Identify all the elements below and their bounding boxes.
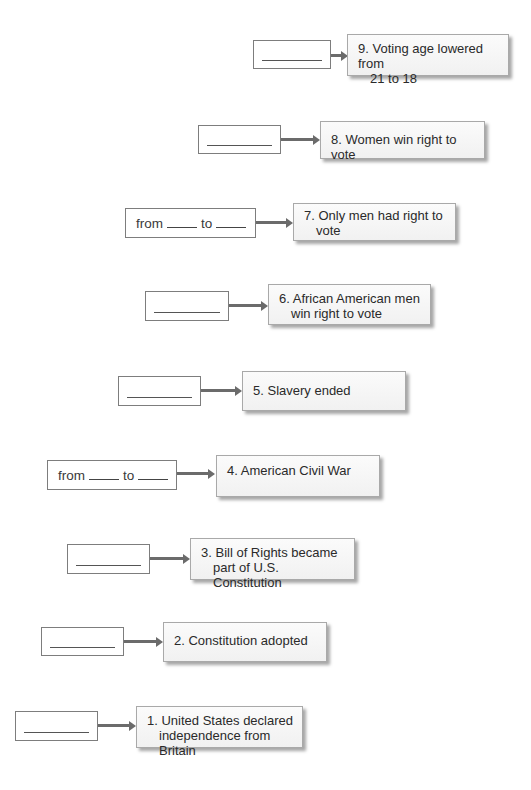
arrow-icon — [229, 304, 262, 307]
answer-box-8[interactable] — [198, 125, 281, 154]
arrow-icon — [150, 557, 184, 560]
event-text: United States declared — [161, 713, 293, 728]
event-text-line2: independence from Britain — [147, 728, 294, 758]
event-box-4: 4. American Civil War — [216, 455, 380, 497]
event-number: 7. — [304, 208, 315, 223]
event-box-3: 3. Bill of Rights became part of U.S. Co… — [190, 538, 355, 580]
event-box-5: 5. Slavery ended — [242, 371, 406, 411]
range-from-label: from — [58, 468, 85, 483]
event-number: 2. — [174, 633, 185, 648]
arrow-icon — [98, 724, 130, 727]
event-number: 4. — [227, 463, 238, 478]
answer-blank-line — [262, 60, 322, 61]
event-number: 8. — [331, 132, 342, 147]
answer-box-1[interactable] — [15, 711, 98, 741]
event-text: African American men — [293, 291, 420, 306]
event-box-9: 9. Voting age lowered from 21 to 18 — [347, 34, 509, 76]
range-from-label: from — [136, 216, 163, 231]
event-text-line2: win right to vote — [279, 306, 422, 321]
range-to-label: to — [201, 216, 212, 231]
answer-blank-line — [50, 647, 115, 648]
answer-box-7-range[interactable]: fromto — [125, 208, 256, 238]
answer-blank-line — [154, 312, 220, 313]
arrow-icon — [124, 640, 157, 643]
event-number: 5. — [253, 383, 264, 398]
to-year-blank[interactable] — [138, 469, 168, 480]
answer-box-4-range[interactable]: fromto — [47, 460, 177, 490]
answer-box-6[interactable] — [145, 291, 229, 321]
arrow-icon — [281, 138, 314, 141]
answer-blank-line — [76, 565, 141, 566]
answer-blank-line — [127, 397, 192, 398]
event-text-line2: 21 to 18 — [358, 71, 500, 86]
to-year-blank[interactable] — [216, 217, 246, 228]
event-box-1: 1. United States declared independence f… — [136, 706, 303, 748]
event-text: Only men had right to — [318, 208, 442, 223]
event-text: Voting age lowered from — [358, 41, 483, 71]
event-text: Bill of Rights became — [215, 545, 337, 560]
answer-box-5[interactable] — [118, 376, 201, 406]
from-year-blank[interactable] — [89, 469, 119, 480]
event-box-7: 7. Only men had right to vote — [293, 203, 456, 241]
answer-box-9[interactable] — [253, 40, 331, 69]
event-number: 9. — [358, 41, 369, 56]
range-text: fromto — [136, 216, 250, 231]
answer-blank-line — [207, 145, 272, 146]
event-box-8: 8. Women win right to vote — [320, 121, 485, 159]
event-text: Constitution adopted — [188, 633, 307, 648]
event-text-line2: part of U.S. Constitution — [201, 560, 346, 590]
from-year-blank[interactable] — [167, 217, 197, 228]
event-text-line2: vote — [304, 223, 447, 238]
arrow-icon — [177, 472, 209, 475]
event-text: Slavery ended — [267, 383, 350, 398]
event-box-2: 2. Constitution adopted — [163, 622, 327, 662]
event-text: Women win right to vote — [331, 132, 457, 162]
event-number: 1. — [147, 713, 158, 728]
event-number: 3. — [201, 545, 212, 560]
range-to-label: to — [123, 468, 134, 483]
arrow-icon — [201, 389, 236, 392]
answer-box-3[interactable] — [67, 544, 150, 574]
event-text: American Civil War — [241, 463, 351, 478]
answer-blank-line — [24, 732, 89, 733]
answer-box-2[interactable] — [41, 627, 124, 656]
arrow-icon — [256, 221, 287, 224]
arrow-icon — [331, 54, 342, 57]
event-number: 6. — [279, 291, 290, 306]
range-text: fromto — [58, 468, 172, 483]
event-box-6: 6. African American men win right to vot… — [268, 284, 431, 325]
